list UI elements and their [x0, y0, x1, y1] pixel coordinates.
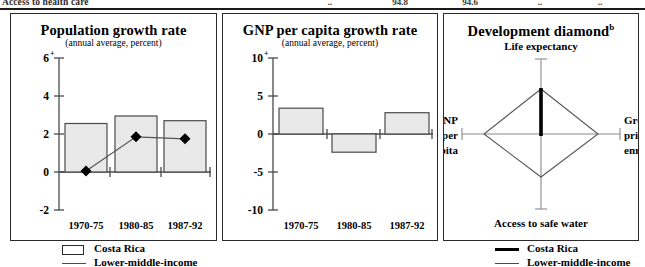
svg-text:0: 0 [257, 128, 263, 140]
svg-text:-10: -10 [248, 204, 264, 216]
svg-text:10: 10 [252, 52, 264, 64]
diamond-label-bottom: Access to safe water [494, 217, 588, 229]
table-row-label: Access to health care [2, 0, 89, 7]
svg-text:6: 6 [43, 52, 49, 64]
diamond-label-right-3: enrollment [624, 144, 638, 156]
svg-text:-5: -5 [253, 166, 263, 178]
development-diamond-chart: Life expectancy Access to safe water GNP… [444, 14, 638, 240]
table-cell-1: 94.8 [382, 0, 418, 7]
table-cell-0: .. [318, 0, 342, 7]
diamond-label-left-3: capita [444, 144, 458, 156]
legend-label: Costa Rica [527, 242, 578, 254]
svg-text:1987-92: 1987-92 [390, 220, 425, 231]
svg-text:2: 2 [43, 128, 49, 140]
legend-label: Lower-middle-income [527, 256, 630, 267]
diamond-label-top: Life expectancy [504, 40, 578, 52]
svg-text:5: 5 [257, 90, 263, 102]
legend-label: Lower-middle-income [94, 256, 197, 267]
thick-line-swatch-icon [495, 248, 519, 251]
panel-population-growth-rate: Population growth rate (annual average, … [10, 13, 217, 241]
table-rule [0, 8, 645, 10]
table-cell-3: .. [528, 0, 552, 7]
table-cell-2: 94.6 [452, 0, 488, 7]
svg-text:1980-85: 1980-85 [119, 220, 154, 231]
diamond-label-left-1: GNP [444, 114, 458, 126]
panel-gnp-per-capita-growth-rate: GNP per capita growth rate (annual avera… [222, 13, 438, 241]
bar-swatch-icon [62, 245, 84, 255]
svg-text:1970-75: 1970-75 [284, 220, 319, 231]
clipped-table-row: Access to health care .. 94.8 94.6 .. .. [0, 0, 645, 11]
svg-text:1970-75: 1970-75 [69, 220, 104, 231]
svg-text:+: + [264, 49, 269, 58]
thin-line-swatch-icon [62, 263, 86, 264]
diamond-label-right-1: Gross [624, 114, 638, 126]
panel-development-diamond: Development diamondb Life expectancy Acc… [443, 13, 639, 241]
svg-text:0: 0 [43, 166, 49, 178]
gnp-per-capita-growth-chart: 10 + 5 0 -5 -10 1970-75 1980-85 1987-92 [223, 14, 437, 240]
population-growth-chart: 6 + 4 2 0 -2 1970-75 1980-85 1987-92 [11, 14, 216, 240]
diamond-label-left-2: per [444, 129, 458, 141]
svg-text:4: 4 [43, 90, 49, 102]
svg-text:1987-92: 1987-92 [168, 220, 203, 231]
thin-line-swatch-icon [495, 263, 519, 264]
table-cell-4: .. [588, 0, 612, 7]
svg-text:1980-85: 1980-85 [337, 220, 372, 231]
legend-label: Costa Rica [94, 242, 145, 254]
diamond-label-right-2: primary [624, 129, 638, 141]
svg-text:+: + [50, 49, 55, 58]
svg-text:-2: -2 [39, 204, 49, 216]
